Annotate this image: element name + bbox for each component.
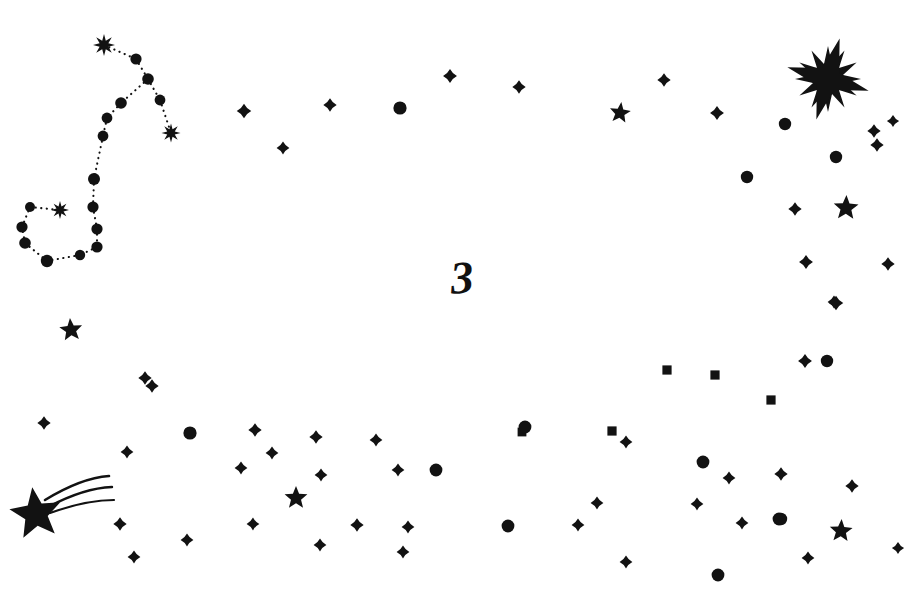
star-square-24 — [766, 395, 775, 404]
node-12-icon[interactable] — [75, 250, 85, 260]
star-circle-12 — [830, 151, 842, 163]
node-10-icon[interactable] — [91, 223, 102, 234]
node-3-icon[interactable] — [142, 73, 154, 85]
node-9-icon[interactable] — [87, 201, 98, 212]
node-6-icon[interactable] — [102, 113, 113, 124]
star-circle-39 — [430, 464, 443, 477]
star-circle-64 — [712, 569, 725, 582]
star-square-22 — [662, 365, 671, 374]
star-circle-9 — [779, 118, 791, 130]
star-circle-30 — [183, 426, 196, 439]
page-background — [0, 0, 911, 605]
star-circle-26 — [821, 355, 833, 367]
node-16-icon[interactable] — [25, 202, 35, 212]
node-13-icon[interactable] — [41, 255, 53, 267]
node-4-icon[interactable] — [155, 95, 166, 106]
node-burst-top-icon[interactable] — [93, 34, 115, 56]
node-7-icon[interactable] — [98, 131, 109, 142]
node-burst-left-icon[interactable] — [51, 201, 69, 219]
star-square-42 — [607, 426, 616, 435]
star-circle-41 — [519, 421, 532, 434]
star-square-23 — [710, 370, 719, 379]
node-5-icon[interactable] — [115, 97, 127, 109]
node-14-icon[interactable] — [19, 237, 31, 249]
node-2-icon[interactable] — [130, 53, 141, 64]
node-burst-right-icon[interactable] — [162, 124, 181, 143]
star-circle-50 — [775, 513, 787, 525]
node-15-icon[interactable] — [16, 221, 27, 232]
node-8-icon[interactable] — [88, 173, 100, 185]
starfield-canvas — [0, 0, 911, 605]
star-circle-61 — [502, 520, 515, 533]
star-circle-13 — [741, 171, 753, 183]
star-circle-3 — [393, 101, 406, 114]
starfield-page: 3 — [0, 0, 911, 605]
node-11-icon[interactable] — [91, 241, 102, 252]
star-circle-44 — [697, 456, 710, 469]
